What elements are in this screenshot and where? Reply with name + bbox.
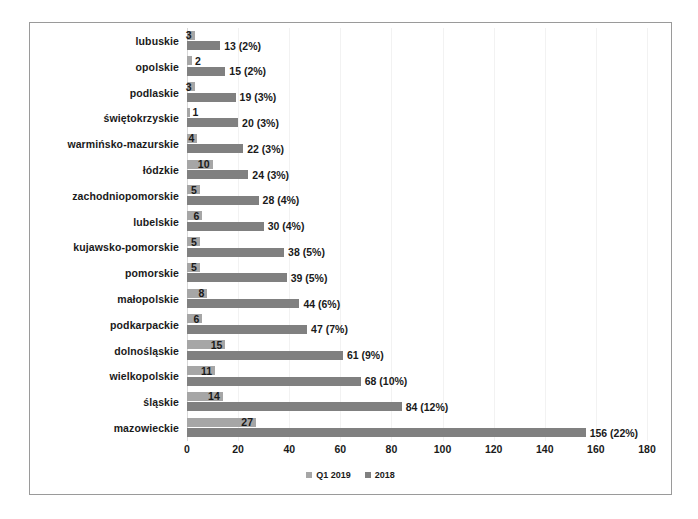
legend-swatch-icon <box>306 472 312 478</box>
bar-q1-2019: 10 <box>187 160 213 169</box>
bar-value-label: 1 <box>193 106 199 118</box>
bar-q1-2019: 6 <box>187 314 202 323</box>
bar-value-label: 24 (3%) <box>252 169 289 181</box>
bar-value-label: 5 <box>191 236 197 248</box>
bar-2018: 84 (12%) <box>187 402 402 411</box>
chart-container: lubuskie313 (2%)opolskie215 (2%)podlaski… <box>29 22 672 495</box>
bar-row: małopolskie844 (6%) <box>187 286 647 312</box>
bar-value-label: 4 <box>188 132 194 144</box>
bar-value-label: 5 <box>191 261 197 273</box>
bar-row: podlaskie319 (3%) <box>187 80 647 106</box>
bar-row: mazowieckie27156 (22%) <box>187 415 647 441</box>
bar-row: opolskie215 (2%) <box>187 54 647 80</box>
category-label: dolnośląskie <box>114 345 179 357</box>
x-axis-tick-label: 60 <box>334 443 346 455</box>
bar-value-label: 5 <box>191 184 197 196</box>
gridline-180 <box>647 28 648 441</box>
bar-row: łódzkie1024 (3%) <box>187 157 647 183</box>
bar-value-label: 38 (5%) <box>288 246 325 258</box>
bar-value-label: 15 <box>211 339 223 351</box>
bar-2018: 22 (3%) <box>187 144 243 153</box>
category-label: pomorskie <box>125 267 179 279</box>
bar-q1-2019: 2 <box>187 56 192 65</box>
legend-label: 2018 <box>375 470 395 480</box>
category-label: warmińsko-mazurskie <box>67 138 179 150</box>
category-label: łódzkie <box>143 164 179 176</box>
bar-row: podkarpackie647 (7%) <box>187 312 647 338</box>
category-label: podkarpackie <box>110 319 179 331</box>
bar-2018: 156 (22%) <box>187 428 586 437</box>
bar-2018: 47 (7%) <box>187 325 307 334</box>
bar-q1-2019: 15 <box>187 340 225 349</box>
x-axis-tick-label: 80 <box>386 443 398 455</box>
bar-2018: 30 (4%) <box>187 222 264 231</box>
bar-value-label: 2 <box>195 55 201 67</box>
bar-value-label: 27 <box>241 416 253 428</box>
bar-2018: 61 (9%) <box>187 351 343 360</box>
bar-value-label: 15 (2%) <box>229 65 266 77</box>
legend-swatch-icon <box>365 472 371 478</box>
bar-2018: 44 (6%) <box>187 299 299 308</box>
bar-value-label: 22 (3%) <box>247 143 284 155</box>
bar-row: zachodniopomorskie528 (4%) <box>187 183 647 209</box>
bar-2018: 24 (3%) <box>187 170 248 179</box>
bar-q1-2019: 6 <box>187 211 202 220</box>
bar-value-label: 84 (12%) <box>406 401 449 413</box>
bar-value-label: 10 <box>198 158 210 170</box>
bar-row: świętokrzyskie120 (3%) <box>187 105 647 131</box>
plot-area: lubuskie313 (2%)opolskie215 (2%)podlaski… <box>187 28 647 441</box>
bar-value-label: 28 (4%) <box>263 194 300 206</box>
bar-value-label: 11 <box>201 365 212 377</box>
x-axis-tick-label: 0 <box>184 443 190 455</box>
category-label: lubuskie <box>136 35 179 47</box>
category-label: podlaskie <box>130 87 179 99</box>
bar-value-label: 68 (10%) <box>365 375 408 387</box>
bar-q1-2019: 5 <box>187 237 200 246</box>
bar-row: wielkopolskie1168 (10%) <box>187 364 647 390</box>
x-axis-tick-label: 100 <box>434 443 452 455</box>
bar-value-label: 20 (3%) <box>242 117 279 129</box>
legend-item[interactable]: 2018 <box>365 470 395 480</box>
bar-2018: 20 (3%) <box>187 118 238 127</box>
bar-value-label: 19 (3%) <box>240 91 277 103</box>
x-axis-tick-label: 40 <box>283 443 295 455</box>
x-axis: 020406080100120140160180 <box>187 443 647 463</box>
bar-q1-2019: 1 <box>187 108 190 117</box>
bar-q1-2019: 5 <box>187 185 200 194</box>
x-axis-tick-label: 20 <box>232 443 244 455</box>
bar-row: lubuskie313 (2%) <box>187 28 647 54</box>
bar-row: warmińsko-mazurskie422 (3%) <box>187 131 647 157</box>
bar-q1-2019: 4 <box>187 134 197 143</box>
bar-value-label: 8 <box>199 287 205 299</box>
bar-value-label: 6 <box>193 210 199 222</box>
x-axis-tick-label: 160 <box>587 443 605 455</box>
bar-2018: 39 (5%) <box>187 273 287 282</box>
bar-q1-2019: 27 <box>187 418 256 427</box>
bar-row: lubelskie630 (4%) <box>187 209 647 235</box>
category-label: zachodniopomorskie <box>72 190 179 202</box>
bar-2018: 13 (2%) <box>187 41 220 50</box>
bar-value-label: 3 <box>186 29 192 41</box>
bar-value-label: 14 <box>208 390 220 402</box>
bar-2018: 68 (10%) <box>187 377 361 386</box>
bar-value-label: 61 (9%) <box>347 349 384 361</box>
bar-value-label: 30 (4%) <box>268 220 305 232</box>
bar-row: śląskie1484 (12%) <box>187 389 647 415</box>
category-label: opolskie <box>136 61 179 73</box>
bar-value-label: 39 (5%) <box>291 272 328 284</box>
bar-2018: 19 (3%) <box>187 93 236 102</box>
bar-value-label: 156 (22%) <box>590 427 638 439</box>
legend-label: Q1 2019 <box>316 470 351 480</box>
bar-row: pomorskie539 (5%) <box>187 260 647 286</box>
bar-2018: 38 (5%) <box>187 248 284 257</box>
bar-value-label: 13 (2%) <box>224 40 261 52</box>
bar-q1-2019: 8 <box>187 289 207 298</box>
legend-item[interactable]: Q1 2019 <box>306 470 351 480</box>
bar-2018: 15 (2%) <box>187 67 225 76</box>
category-label: świętokrzyskie <box>103 112 179 124</box>
category-label: śląskie <box>143 396 179 408</box>
bar-rows: lubuskie313 (2%)opolskie215 (2%)podlaski… <box>187 28 647 441</box>
bar-value-label: 3 <box>186 81 192 93</box>
category-label: wielkopolskie <box>109 370 179 382</box>
category-label: lubelskie <box>133 216 179 228</box>
